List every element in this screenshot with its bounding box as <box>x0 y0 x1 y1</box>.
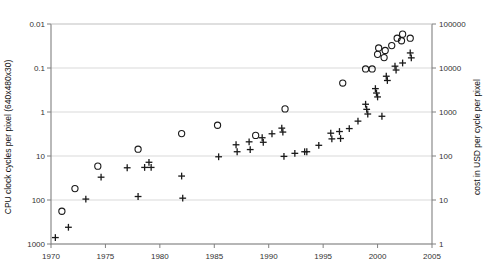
y2-tick-label: 10 <box>439 196 448 205</box>
data-point-plus <box>82 196 89 203</box>
data-point-circle <box>389 43 395 49</box>
data-point-plus <box>373 90 380 97</box>
data-point-circle <box>382 47 388 53</box>
data-point-circle <box>400 31 406 37</box>
data-point-plus <box>278 125 285 132</box>
data-point-plus <box>328 135 335 142</box>
data-point-circle <box>340 80 346 86</box>
data-point-circle <box>374 51 380 57</box>
data-point-circle <box>95 163 101 169</box>
data-point-plus <box>246 138 253 145</box>
x-tick-label: 1970 <box>42 252 60 261</box>
y2-tick-label: 10000 <box>439 64 462 73</box>
data-point-plus <box>355 118 362 125</box>
x-tick-label: 1995 <box>314 252 332 261</box>
data-point-circle <box>135 146 141 152</box>
x-tick-label: 1975 <box>97 252 115 261</box>
data-point-plus <box>260 139 267 146</box>
data-point-plus <box>269 130 276 137</box>
data-point-plus <box>179 195 186 202</box>
data-point-plus <box>362 101 369 108</box>
left-axis-ticks: 10001001010.10.01 <box>27 20 51 249</box>
data-point-plus <box>364 111 371 118</box>
data-markers-circle <box>59 31 414 214</box>
y2-tick-label: 1 <box>439 240 444 249</box>
data-point-plus <box>233 141 240 148</box>
data-point-circle <box>381 54 387 60</box>
data-point-plus <box>315 142 322 149</box>
y2-tick-label: 100 <box>439 152 453 161</box>
data-point-circle <box>362 66 368 72</box>
y-tick-label: 1 <box>41 108 46 117</box>
data-point-plus <box>215 153 222 160</box>
data-point-circle <box>72 185 78 191</box>
data-point-plus <box>124 164 131 171</box>
data-point-plus <box>374 94 381 101</box>
data-point-circle <box>376 45 382 51</box>
x-tick-label: 1985 <box>205 252 223 261</box>
data-point-plus <box>178 173 185 180</box>
data-point-plus <box>384 77 391 84</box>
data-point-circle <box>59 208 65 214</box>
data-point-plus <box>327 130 334 137</box>
y-tick-label: 10 <box>36 152 45 161</box>
data-point-plus <box>336 128 343 135</box>
data-point-circle <box>282 106 288 112</box>
data-point-circle <box>253 132 259 138</box>
x-tick-label: 1980 <box>151 252 169 261</box>
data-point-plus <box>98 174 105 181</box>
data-point-plus <box>392 63 399 70</box>
data-point-plus <box>234 148 241 155</box>
data-point-plus <box>393 67 400 74</box>
data-point-plus <box>259 134 266 141</box>
data-point-plus <box>383 73 390 80</box>
data-point-circle <box>407 35 413 41</box>
data-point-plus <box>141 164 148 171</box>
y2-tick-label: 1000 <box>439 108 457 117</box>
data-point-plus <box>135 193 142 200</box>
data-point-plus <box>52 234 59 241</box>
plot-frame <box>51 24 432 244</box>
x-axis-ticks: 19701975198019851990199520002005 <box>42 244 441 261</box>
data-point-circle <box>214 122 220 128</box>
data-point-plus <box>281 153 288 160</box>
data-point-plus <box>65 224 72 231</box>
y-axis-title: CPU clock cycles per pixel (640x480x30) <box>3 60 13 215</box>
data-point-circle <box>369 66 375 72</box>
y-tick-label: 100 <box>32 196 46 205</box>
data-markers-plus <box>52 50 415 241</box>
y2-tick-label: 100000 <box>439 20 466 29</box>
right-axis-ticks: 100000100001000100101 <box>432 20 466 249</box>
x-tick-label: 1990 <box>260 252 278 261</box>
data-point-plus <box>372 85 379 92</box>
data-point-plus <box>346 125 353 132</box>
axis-left-bottom <box>51 24 432 244</box>
x-tick-label: 2005 <box>423 252 441 261</box>
scatter-chart: 10001001010.10.01 100000100001000100101 … <box>0 0 490 274</box>
y-tick-label: 1000 <box>27 240 45 249</box>
data-point-circle <box>179 131 185 137</box>
y-tick-label: 0.1 <box>34 64 46 73</box>
data-point-plus <box>279 129 286 136</box>
data-point-plus <box>379 113 386 120</box>
data-point-plus <box>399 60 406 67</box>
data-point-plus <box>408 54 415 61</box>
data-point-plus <box>337 135 344 142</box>
y-tick-label: 0.01 <box>29 20 45 29</box>
data-point-plus <box>247 146 254 153</box>
x-tick-label: 2000 <box>369 252 387 261</box>
chart-canvas: 10001001010.10.01 100000100001000100101 … <box>0 0 490 274</box>
gridlines <box>51 24 432 244</box>
data-point-plus <box>407 50 414 57</box>
y2-axis-title: cost in USD per cycle per pixel <box>472 79 482 195</box>
